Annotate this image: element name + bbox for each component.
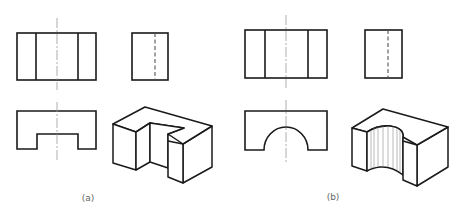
- panel-b-isometric-view: [352, 109, 448, 186]
- panel-b-front-view: [245, 15, 327, 88]
- caption-a: (a): [82, 193, 95, 203]
- top-view-outline: [17, 111, 96, 149]
- panel-b: (b): [245, 15, 448, 202]
- iso-inner-side-wall: [136, 123, 150, 170]
- panel-a-side-view: [132, 33, 168, 80]
- panel-b-side-view: [365, 30, 402, 78]
- panel-a-top-view: [17, 102, 96, 160]
- iso-cylindrical-surface: [367, 126, 403, 175]
- front-view-outline: [17, 33, 96, 80]
- iso-left-front-face: [352, 128, 367, 171]
- panel-a-isometric-view: [113, 107, 212, 183]
- panel-a: (a): [17, 18, 212, 203]
- side-view-outline: [132, 33, 168, 80]
- side-view-outline: [365, 30, 402, 78]
- caption-b: (b): [327, 192, 340, 202]
- panel-a-front-view: [17, 18, 96, 90]
- technical-drawing: (a): [0, 0, 465, 213]
- iso-left-front-face: [113, 124, 136, 170]
- panel-b-top-view: [245, 100, 327, 162]
